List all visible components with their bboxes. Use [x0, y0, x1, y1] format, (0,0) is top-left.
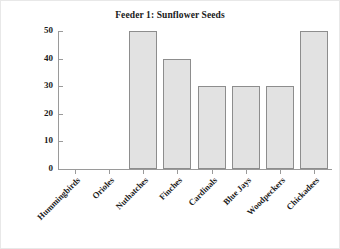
chart-figure: Feeder 1: Sunflower Seeds 01020304050 Hu… [0, 0, 340, 249]
x-tick-mark [177, 170, 178, 174]
bar [198, 86, 226, 169]
x-tick-label: Hummingbirds [0, 175, 82, 249]
x-tick-mark [143, 170, 144, 174]
x-tick-mark [280, 170, 281, 174]
y-tick-label: 0 [13, 163, 53, 174]
y-tick-label: 20 [13, 108, 53, 119]
y-tick-mark [58, 169, 63, 170]
y-tick-label: 50 [13, 25, 53, 36]
x-tick-mark [75, 170, 76, 174]
x-tick-mark [314, 170, 315, 174]
bar [163, 59, 191, 169]
x-tick-mark [212, 170, 213, 174]
x-tick-mark [109, 170, 110, 174]
chart-title: Feeder 1: Sunflower Seeds [1, 10, 339, 20]
bar [129, 31, 157, 169]
x-tick-mark [246, 170, 247, 174]
y-tick-label: 10 [13, 135, 53, 146]
y-tick-label: 30 [13, 80, 53, 91]
bar [232, 86, 260, 169]
plot-area [58, 31, 331, 169]
bar [300, 31, 328, 169]
x-axis-line [58, 169, 332, 170]
y-tick-label: 40 [13, 53, 53, 64]
bar [266, 86, 294, 169]
